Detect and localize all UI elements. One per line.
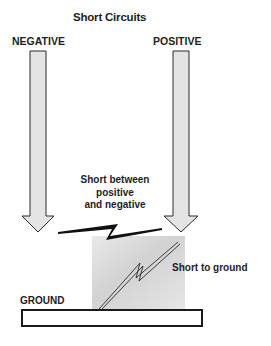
ground-bar: [22, 310, 202, 326]
short-between-line-2: positive: [70, 187, 160, 200]
short-between-line-1: Short between: [70, 174, 160, 187]
short-to-ground-label: Short to ground: [172, 262, 248, 273]
ground-label: GROUND: [20, 295, 64, 306]
short-between-line-3: and negative: [70, 199, 160, 212]
negative-conductor-arrow: [22, 51, 54, 232]
positive-label: POSITIVE: [153, 35, 201, 47]
negative-label: NEGATIVE: [12, 35, 65, 47]
positive-conductor-arrow: [164, 51, 198, 232]
diagram-title: Short Circuits: [73, 11, 146, 23]
short-between-label: Short between positive and negative: [70, 174, 160, 212]
